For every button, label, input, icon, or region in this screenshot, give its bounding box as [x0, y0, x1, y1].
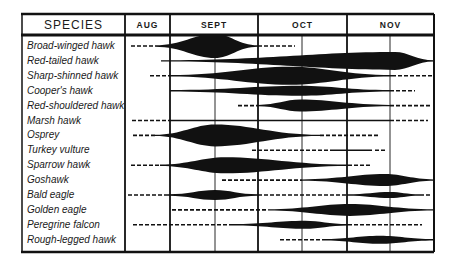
species-label: Red-shouldered hawk — [27, 100, 124, 112]
abundance-band — [258, 100, 390, 112]
species-label: Broad-winged hawk — [27, 40, 115, 52]
species-label: Cooper's hawk — [27, 85, 93, 97]
header-month-nov: NOV — [347, 15, 434, 34]
abundance-band — [170, 86, 390, 96]
species-label: Bald eagle — [27, 189, 74, 201]
species-label: Osprey — [27, 129, 59, 141]
abundance-band — [330, 150, 372, 152]
species-label: Sparrow hawk — [27, 159, 90, 171]
header-month-aug: AUG — [125, 15, 170, 34]
header-species: SPECIES — [22, 15, 125, 34]
abundance-band — [347, 192, 420, 198]
abundance-band — [302, 174, 434, 186]
abundance-band — [232, 221, 348, 229]
abundance-band — [170, 67, 392, 85]
abundance-band — [168, 190, 258, 200]
abundance-band — [155, 124, 320, 146]
header-month-oct: OCT — [258, 15, 347, 34]
abundance-band — [160, 157, 348, 173]
species-label: Red-tailed hawk — [27, 55, 99, 67]
abundance-band — [170, 120, 390, 122]
species-label: Rough-legged hawk — [27, 234, 116, 246]
migration-bands — [128, 34, 434, 244]
species-label: Sharp-shinned hawk — [27, 70, 118, 82]
header-month-sept: SEPT — [170, 15, 258, 34]
species-label: Goshawk — [27, 174, 69, 186]
species-label: Golden eagle — [27, 204, 87, 216]
species-label: Turkey vulture — [27, 144, 90, 156]
abundance-band — [268, 204, 434, 216]
species-label: Peregrine falcon — [27, 219, 100, 231]
abundance-band — [322, 236, 434, 244]
species-label: Marsh hawk — [27, 115, 81, 127]
